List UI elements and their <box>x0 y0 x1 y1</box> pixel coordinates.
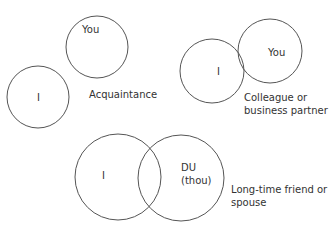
friend-caption-line-2: spouse <box>231 197 327 210</box>
friend-du-line-1: DU <box>181 162 212 175</box>
friend-caption: Long-time friend or spouse <box>231 184 327 209</box>
colleague-you-label: You <box>268 47 285 59</box>
colleague-i-circle <box>180 39 244 103</box>
friend-i-circle <box>75 134 161 220</box>
friend-du-label: DU (thou) <box>181 162 212 187</box>
acquaintance-i-label: I <box>37 92 40 104</box>
friend-caption-line-1: Long-time friend or <box>231 184 327 197</box>
friend-i-label: I <box>102 170 105 182</box>
colleague-caption-line-2: business partner <box>244 105 328 118</box>
colleague-caption-line-1: Colleague or <box>244 92 328 105</box>
acquaintance-you-label: You <box>82 24 99 36</box>
friend-du-line-2: (thou) <box>181 175 212 188</box>
colleague-i-label: I <box>217 66 220 78</box>
acquaintance-caption: Acquaintance <box>89 89 157 102</box>
colleague-caption: Colleague or business partner <box>244 92 328 117</box>
